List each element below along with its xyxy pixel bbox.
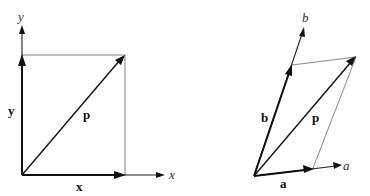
b-vector-arrowhead xyxy=(285,64,292,76)
left-panel: y x y x p xyxy=(8,9,175,194)
x-vector-label: x xyxy=(76,179,83,194)
p-vector-label: p xyxy=(83,107,90,122)
y-axis-label: y xyxy=(16,9,24,24)
b-vector xyxy=(254,73,289,176)
p-vector xyxy=(22,60,120,175)
vector-decomposition-figure: y x y x p b a b a p xyxy=(0,0,370,196)
parallelogram-right-guide xyxy=(313,57,356,168)
b-vector-label: b xyxy=(261,110,268,125)
right-panel: b a b a p xyxy=(254,10,356,191)
p-vector-oblique-label: p xyxy=(312,110,319,125)
a-axis-label: a xyxy=(343,158,350,173)
b-axis-arrowhead xyxy=(299,27,305,37)
a-axis-arrowhead xyxy=(333,162,342,169)
x-vector-arrowhead xyxy=(114,171,126,179)
a-vector-arrowhead xyxy=(303,165,314,173)
x-axis-label: x xyxy=(168,167,175,182)
x-axis-arrowhead xyxy=(156,172,165,178)
y-axis-arrowhead xyxy=(19,25,25,34)
b-axis-label: b xyxy=(302,10,309,25)
y-vector-arrowhead xyxy=(18,54,26,66)
a-vector-label: a xyxy=(280,176,287,191)
y-vector-label: y xyxy=(8,103,15,118)
p-vector-oblique xyxy=(254,62,351,176)
